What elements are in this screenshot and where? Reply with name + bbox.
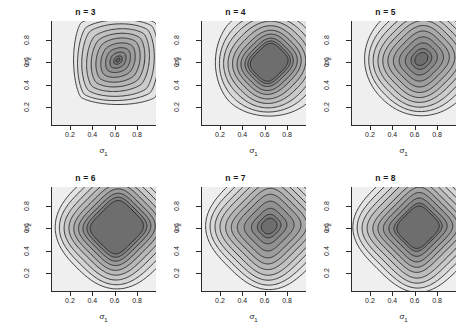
x-tick-mark <box>392 126 393 130</box>
x-tick-label: 0.4 <box>81 297 103 304</box>
y-axis-tick: 0.6 <box>339 62 351 63</box>
x-axis-label-subscript: 1 <box>254 151 257 157</box>
y-tick-mark <box>196 85 201 86</box>
y-tick-mark <box>196 228 201 229</box>
x-tick-mark <box>115 292 116 296</box>
x-axis-label-subscript: 1 <box>404 317 407 323</box>
x-tick-mark <box>92 126 93 130</box>
x-tick-label: 0.2 <box>59 131 81 138</box>
y-axis-label-subscript: 2 <box>26 57 32 60</box>
x-axis-label: σ1 <box>351 312 456 323</box>
y-tick-mark <box>46 251 51 252</box>
y-axis-label-symbol: σ <box>172 61 181 66</box>
y-tick-label: 0.2 <box>165 263 189 283</box>
x-axis-tick: 0.2 <box>70 292 71 302</box>
x-axis-label-subscript: 1 <box>104 151 107 157</box>
x-tick-mark <box>242 292 243 296</box>
x-axis-label: σ1 <box>351 146 456 157</box>
x-tick-mark <box>265 292 266 296</box>
y-tick-mark <box>346 228 351 229</box>
y-axis-tick: 0.6 <box>189 228 201 229</box>
y-axis-tick: 0.2 <box>39 107 51 108</box>
panel-title: n = 4 <box>158 7 313 17</box>
x-tick-mark <box>437 126 438 130</box>
y-axis-tick: 0.8 <box>189 206 201 207</box>
x-tick-mark <box>92 292 93 296</box>
x-axis-tick: 0.8 <box>287 126 288 136</box>
x-tick-label: 0.6 <box>404 131 426 138</box>
y-tick-mark <box>46 40 51 41</box>
y-axis-tick: 0.4 <box>189 251 201 252</box>
y-axis-label: σ2 <box>322 210 333 244</box>
plot-area <box>201 21 306 126</box>
y-axis-tick: 0.6 <box>39 62 51 63</box>
x-tick-mark <box>392 292 393 296</box>
plot-area <box>351 187 456 292</box>
y-axis-tick: 0.8 <box>39 40 51 41</box>
x-tick-label: 0.6 <box>254 297 276 304</box>
x-tick-label: 0.4 <box>231 131 253 138</box>
y-tick-mark <box>46 273 51 274</box>
x-axis-label: σ1 <box>201 146 306 157</box>
y-axis-tick: 0.6 <box>339 228 351 229</box>
panel-title: n = 7 <box>158 173 313 183</box>
y-axis-tick: 0.6 <box>39 228 51 229</box>
y-axis-tick: 0.8 <box>339 40 351 41</box>
y-tick-mark <box>346 62 351 63</box>
y-tick-mark <box>46 206 51 207</box>
y-axis-label-symbol: σ <box>22 61 31 66</box>
x-axis-tick: 0.8 <box>287 292 288 302</box>
y-axis-label-subscript: 2 <box>326 223 332 226</box>
y-tick-mark <box>196 206 201 207</box>
x-tick-label: 0.8 <box>126 131 148 138</box>
x-tick-mark <box>70 292 71 296</box>
y-axis-label-subscript: 2 <box>176 223 182 226</box>
contour-panel-n-5: n = 50.20.40.60.80.20.40.60.8σ1σ2 <box>308 0 463 166</box>
y-axis-label-symbol: σ <box>172 227 181 232</box>
x-axis-tick: 0.8 <box>137 126 138 136</box>
y-tick-mark <box>46 85 51 86</box>
x-tick-mark <box>415 292 416 296</box>
x-axis-tick: 0.4 <box>242 126 243 136</box>
x-axis-tick: 0.2 <box>220 292 221 302</box>
x-tick-mark <box>220 126 221 130</box>
panel-title: n = 8 <box>308 173 463 183</box>
y-axis-tick: 0.2 <box>339 107 351 108</box>
x-tick-mark <box>370 126 371 130</box>
contour-panel-n-3: n = 30.20.40.60.80.20.40.60.8σ1σ2 <box>8 0 163 166</box>
plot-area <box>51 21 156 126</box>
y-axis-tick: 0.2 <box>189 107 201 108</box>
x-tick-label: 0.8 <box>126 297 148 304</box>
x-tick-label: 0.8 <box>426 131 448 138</box>
x-axis-tick: 0.6 <box>415 292 416 302</box>
y-axis-tick: 0.2 <box>339 273 351 274</box>
x-axis-tick: 0.2 <box>70 126 71 136</box>
x-axis-tick: 0.4 <box>92 292 93 302</box>
x-tick-label: 0.2 <box>59 297 81 304</box>
x-tick-label: 0.2 <box>209 297 231 304</box>
x-tick-mark <box>415 126 416 130</box>
y-axis-tick: 0.4 <box>39 85 51 86</box>
y-axis-tick: 0.4 <box>39 251 51 252</box>
y-tick-mark <box>46 228 51 229</box>
y-axis-tick: 0.4 <box>339 85 351 86</box>
panel-title: n = 5 <box>308 7 463 17</box>
x-axis-tick: 0.6 <box>265 126 266 136</box>
x-tick-label: 0.4 <box>381 131 403 138</box>
x-axis-tick: 0.6 <box>115 292 116 302</box>
x-tick-label: 0.2 <box>359 297 381 304</box>
x-axis-tick: 0.2 <box>370 126 371 136</box>
plot-area <box>351 21 456 126</box>
y-axis-label-subscript: 2 <box>326 57 332 60</box>
x-axis-tick: 0.4 <box>392 292 393 302</box>
y-axis-tick: 0.2 <box>39 273 51 274</box>
x-axis-label-subscript: 1 <box>104 317 107 323</box>
y-tick-label: 0.2 <box>165 97 189 117</box>
contour-panel-n-6: n = 60.20.40.60.80.20.40.60.8σ1σ2 <box>8 166 163 332</box>
x-axis-tick: 0.2 <box>370 292 371 302</box>
contour-figure: n = 30.20.40.60.80.20.40.60.8σ1σ2n = 40.… <box>0 0 465 332</box>
y-axis-tick: 0.4 <box>189 85 201 86</box>
contour-panel-n-4: n = 40.20.40.60.80.20.40.60.8σ1σ2 <box>158 0 313 166</box>
x-axis-label-subscript: 1 <box>404 151 407 157</box>
x-tick-label: 0.6 <box>104 297 126 304</box>
